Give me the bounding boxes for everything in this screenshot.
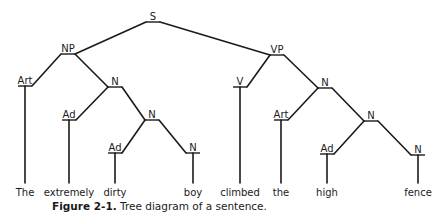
node-label-np: NP: [61, 43, 75, 54]
node-label-n4: N: [321, 77, 328, 88]
tree-edge: [76, 87, 108, 120]
node-label-art2: Art: [274, 109, 289, 120]
tree-diagram: SNPVPArtNAdNAdNVNArtNAdN Theextremelydir…: [0, 0, 443, 214]
figure-caption: Figure 2-1. Tree diagram of a sentence.: [52, 200, 267, 212]
node-label-n1: N: [111, 76, 118, 87]
node-label-v: V: [237, 76, 244, 87]
word-high: high: [316, 187, 338, 198]
tree-words: Theextremelydirtyboyclimbedthehighfence: [15, 86, 432, 198]
tree-edge: [288, 88, 318, 120]
node-label-s: S: [150, 11, 156, 22]
word-extremely: extremely: [44, 187, 95, 198]
tree-edge: [122, 120, 145, 153]
tree-edges: [32, 22, 411, 155]
tree-edge: [75, 22, 146, 54]
tree-edge: [75, 54, 108, 87]
figure-number: Figure 2-1.: [52, 200, 117, 212]
tree-nodes: SNPVPArtNAdNAdNVNArtNAdN: [18, 11, 425, 155]
tree-edge: [334, 121, 364, 154]
node-label-n2: N: [148, 109, 155, 120]
word-climbed: climbed: [220, 187, 260, 198]
node-label-vp: VP: [271, 44, 284, 55]
word-the: The: [15, 187, 35, 198]
node-label-art1: Art: [18, 75, 33, 86]
tree-edge: [159, 120, 186, 153]
tree-edge: [32, 54, 61, 86]
tree-edge: [247, 55, 270, 87]
word-fence: fence: [404, 187, 432, 198]
tree-edge: [122, 87, 145, 120]
tree-edge: [378, 121, 411, 155]
tree-edge: [332, 88, 364, 121]
node-label-n5: N: [367, 110, 374, 121]
word-the: the: [273, 187, 289, 198]
figure-caption-text: Tree diagram of a sentence.: [117, 200, 267, 212]
tree-edge: [160, 22, 270, 55]
word-boy: boy: [184, 187, 202, 198]
word-dirty: dirty: [103, 187, 126, 198]
node-label-ad2: Ad: [108, 142, 121, 153]
tree-edge: [284, 55, 318, 88]
node-label-n6: N: [414, 144, 421, 155]
node-label-ad1: Ad: [62, 109, 75, 120]
node-label-n3: N: [189, 142, 196, 153]
node-label-ad3: Ad: [320, 143, 333, 154]
